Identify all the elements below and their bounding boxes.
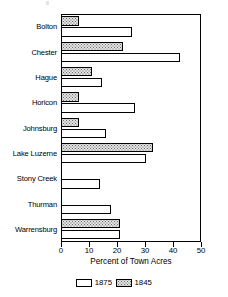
category-label: Chester xyxy=(31,48,57,57)
x-axis-tick-label: 30 xyxy=(141,246,150,256)
x-axis-title: Percent of Town Acres xyxy=(61,256,201,267)
legend-label-1875: 1875 xyxy=(95,278,112,287)
bar-group xyxy=(61,65,201,90)
bar-group xyxy=(61,39,201,64)
category-label: Lake Luzerne xyxy=(13,149,57,158)
category-label: Hague xyxy=(35,73,57,82)
bar-1845 xyxy=(61,42,123,51)
bar-group xyxy=(61,166,201,191)
bar-1845 xyxy=(61,16,79,25)
category-label: Johnsburg xyxy=(23,124,57,133)
bar-1875 xyxy=(61,129,106,138)
bar-group xyxy=(61,217,201,242)
bar-1845 xyxy=(61,219,120,228)
bar-group xyxy=(61,141,201,166)
bar-group xyxy=(61,115,201,140)
legend-item-1875: 1875 xyxy=(76,278,112,287)
bar-group xyxy=(61,14,201,39)
x-axis-tick-label: 10 xyxy=(85,246,94,256)
category-label: Stony Creek xyxy=(17,174,57,183)
bar-group-container xyxy=(61,14,201,242)
legend-label-1845: 1845 xyxy=(135,278,152,287)
bar-1875 xyxy=(61,103,135,112)
category-label: Thurman xyxy=(28,200,57,209)
bar-1845 xyxy=(61,92,79,101)
category-label: Bolton xyxy=(36,22,57,31)
bar-1845 xyxy=(61,118,79,127)
legend-swatch-icon-1875 xyxy=(76,279,92,287)
bar-1845 xyxy=(61,67,92,76)
bar-1845 xyxy=(61,143,153,152)
x-axis-tick-label: 50 xyxy=(197,246,206,256)
bar-1875 xyxy=(61,154,146,163)
bar-1875 xyxy=(61,78,102,87)
category-label: Horicon xyxy=(32,98,57,107)
bar-1875 xyxy=(61,205,111,214)
x-axis-tick-label: 20 xyxy=(113,246,122,256)
legend-item-1845: 1845 xyxy=(116,278,152,287)
bar-1875 xyxy=(61,230,120,239)
bar-1875 xyxy=(61,179,100,188)
bar-chart: Bolton Chester Hague Horicon Johnsburg L… xyxy=(0,0,228,297)
chart-legend: 1875 1845 xyxy=(0,278,228,287)
bar-group xyxy=(61,90,201,115)
bar-group xyxy=(61,191,201,216)
x-axis-tick-label: 0 xyxy=(59,246,63,256)
legend-swatch-icon-1845 xyxy=(116,279,132,287)
bar-1875 xyxy=(61,27,132,36)
x-axis-tick-label: 40 xyxy=(169,246,178,256)
scan-artifact xyxy=(46,1,49,5)
category-label: Warrensburg xyxy=(15,225,57,234)
category-axis-labels: Bolton Chester Hague Horicon Johnsburg L… xyxy=(0,14,59,242)
bar-1875 xyxy=(61,53,180,62)
